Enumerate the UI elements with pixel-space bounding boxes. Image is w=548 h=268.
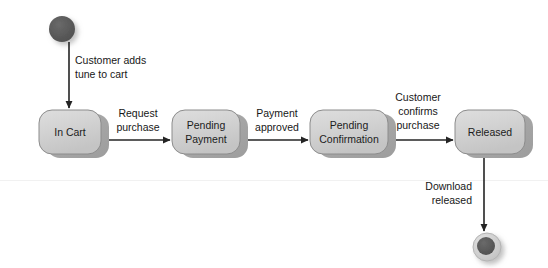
state-label-pending-confirmation-line1: Pending bbox=[330, 119, 369, 131]
transition-label-released-to-final: Download released bbox=[425, 180, 472, 206]
state-label-in-cart: In Cart bbox=[54, 126, 86, 138]
transition-label-pending-payment-to-pending-confirmation: Payment approved bbox=[255, 107, 299, 133]
transition-label-line2: purchase bbox=[116, 121, 159, 133]
transition-label-line1: Customer bbox=[395, 91, 441, 103]
state-diagram: In Cart Pending Payment Pending Confirma… bbox=[0, 0, 548, 268]
transition-label-line1: Request bbox=[118, 107, 157, 119]
state-label-pending-payment-line1: Pending bbox=[187, 119, 226, 131]
state-in-cart[interactable]: In Cart bbox=[39, 110, 109, 158]
transition-label-line2: tune to cart bbox=[75, 68, 128, 80]
transition-label-line1: Download bbox=[425, 180, 472, 192]
state-label-released: Released bbox=[468, 126, 513, 138]
state-released[interactable]: Released bbox=[455, 110, 533, 158]
final-state-node bbox=[473, 233, 501, 261]
transition-label-line3: purchase bbox=[396, 119, 439, 131]
transition-label-start-to-in-cart: Customer adds tune to cart bbox=[75, 54, 146, 80]
state-label-pending-confirmation-line2: Confirmation bbox=[319, 133, 379, 145]
initial-state-node bbox=[49, 16, 75, 42]
transition-label-line2: released bbox=[432, 194, 472, 206]
transition-label-pending-confirmation-to-released: Customer confirms purchase bbox=[395, 91, 441, 131]
state-diagram-canvas: In Cart Pending Payment Pending Confirma… bbox=[0, 0, 548, 268]
state-pending-confirmation[interactable]: Pending Confirmation bbox=[310, 110, 396, 158]
transition-label-line2: approved bbox=[255, 121, 299, 133]
transition-label-line2: confirms bbox=[398, 105, 438, 117]
transition-label-line1: Payment bbox=[256, 107, 298, 119]
state-pending-payment[interactable]: Pending Payment bbox=[172, 110, 248, 158]
transition-label-in-cart-to-pending-payment: Request purchase bbox=[116, 107, 159, 133]
transition-label-line1: Customer adds bbox=[75, 54, 146, 66]
state-label-pending-payment-line2: Payment bbox=[185, 133, 227, 145]
